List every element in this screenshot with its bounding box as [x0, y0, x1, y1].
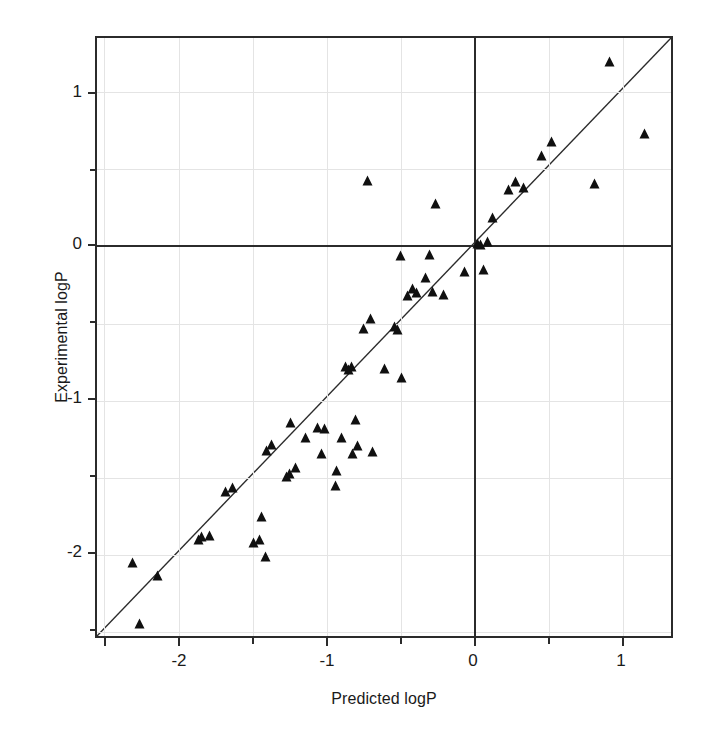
gridline-vertical: [327, 38, 328, 636]
data-point-marker: [320, 424, 330, 434]
x-axis-label: Predicted logP: [95, 690, 673, 708]
x-tick-0: [474, 637, 476, 646]
data-point-marker: [379, 363, 389, 373]
data-point-marker: [286, 417, 296, 427]
data-point-marker: [204, 530, 214, 540]
y-tick-label-1: 1: [42, 82, 82, 102]
gridline-horizontal: [97, 478, 671, 479]
data-point-marker: [483, 237, 493, 247]
data-point-marker: [546, 136, 556, 146]
data-point-marker: [478, 265, 488, 275]
plot-area: [95, 36, 673, 638]
data-point-marker: [395, 251, 405, 261]
data-point-marker: [438, 289, 448, 299]
data-point-marker: [425, 249, 435, 259]
gridline-vertical: [104, 38, 105, 636]
gridline-vertical: [623, 38, 624, 636]
identity-line: [97, 38, 671, 636]
data-point-marker: [351, 414, 361, 424]
data-point-marker: [127, 558, 137, 568]
data-point-marker: [255, 535, 265, 545]
y-tick-label-m2: -2: [42, 542, 82, 562]
data-point-marker: [421, 272, 431, 282]
data-point-marker: [518, 183, 528, 193]
data-point-marker: [330, 481, 340, 491]
gridline-horizontal: [97, 632, 671, 633]
x-tick-m0p5: [400, 637, 402, 644]
x-tick-label-m2: -2: [154, 651, 204, 671]
gridline-horizontal: [97, 92, 671, 93]
data-point-marker: [266, 439, 276, 449]
data-point-marker: [260, 552, 270, 562]
data-point-marker: [397, 373, 407, 383]
data-point-marker: [428, 286, 438, 296]
data-point-marker: [317, 448, 327, 458]
data-point-marker: [604, 56, 614, 66]
gridline-horizontal: [97, 324, 671, 325]
x-tick-1: [622, 637, 624, 646]
data-point-marker: [256, 512, 266, 522]
gridline-horizontal: [97, 169, 671, 170]
data-point-marker: [336, 433, 346, 443]
data-point-marker: [332, 465, 342, 475]
gridline-horizontal: [97, 555, 671, 556]
zero-line-vertical: [474, 38, 476, 636]
data-point-marker: [358, 323, 368, 333]
y-tick-label-0: 0: [42, 234, 82, 254]
data-point-marker: [392, 325, 402, 335]
gridline-vertical: [179, 38, 180, 636]
data-point-marker: [459, 266, 469, 276]
scatter-plot-figure: Experimental logP Predicted logP 1 0 -1 …: [0, 0, 708, 741]
gridline-horizontal: [97, 401, 671, 402]
gridline-vertical: [549, 38, 550, 636]
gridline-vertical: [401, 38, 402, 636]
data-point-marker: [346, 362, 356, 372]
x-tick-m1: [326, 637, 328, 646]
plot-inner: [97, 38, 671, 636]
zero-line-horizontal: [97, 245, 671, 247]
data-point-marker: [352, 441, 362, 451]
data-point-marker: [152, 570, 162, 580]
x-tick-m2: [178, 637, 180, 646]
x-tick-label-m1: -1: [302, 651, 352, 671]
x-tick-m2p5: [104, 637, 106, 646]
x-tick-0p5: [548, 637, 550, 644]
data-point-marker: [640, 129, 650, 139]
data-point-marker: [363, 175, 373, 185]
data-point-marker: [300, 433, 310, 443]
y-tick-label-m1: -1: [42, 388, 82, 408]
x-tick-m1p5: [252, 637, 254, 644]
data-point-marker: [367, 447, 377, 457]
data-point-marker: [589, 178, 599, 188]
data-point-marker: [366, 314, 376, 324]
x-tick-label-0: 0: [448, 651, 498, 671]
data-point-marker: [431, 198, 441, 208]
x-tick-label-1: 1: [596, 651, 646, 671]
data-point-marker: [536, 150, 546, 160]
data-point-marker: [487, 212, 497, 222]
data-point-marker: [412, 288, 422, 298]
data-point-marker: [134, 618, 144, 628]
data-point-marker: [290, 462, 300, 472]
data-point-marker: [228, 482, 238, 492]
